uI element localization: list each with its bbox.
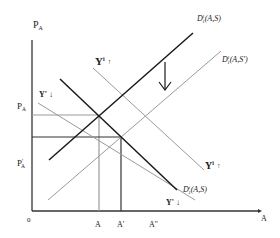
- x-axis-label: A: [261, 214, 267, 223]
- quantity-label-a-prime: A': [117, 220, 125, 229]
- origin-label: 0: [27, 216, 31, 224]
- quantity-label-a-double-prime: A'': [149, 220, 158, 229]
- price-label-pa: PA: [17, 101, 26, 112]
- quantity-label-a: A: [95, 220, 101, 229]
- income-down-left-label: Y'↓: [39, 90, 53, 99]
- supply-shifted-label: Dl1(A,S'): [221, 55, 248, 65]
- diagram-canvas: PA A 0 PA P'A A A' A'' Dl1(A,S) Dl1(A,S'…: [0, 0, 280, 238]
- price-label-pa-prime: P'A: [17, 158, 25, 169]
- income-up-right-label: Yi↑: [205, 160, 220, 171]
- shift-down-arrow-icon: [159, 62, 171, 90]
- demand-income-up-line: [93, 68, 204, 170]
- income-up-top-label: Yi↑: [95, 55, 111, 67]
- y-axis-label: PA: [33, 19, 44, 31]
- income-down-right-label: Y'↓: [166, 198, 180, 207]
- demand-label: Di1(A,S): [182, 185, 207, 195]
- x-axis-arrow-icon: [258, 209, 262, 213]
- supply-initial-label: Dl1(A,S): [196, 14, 221, 24]
